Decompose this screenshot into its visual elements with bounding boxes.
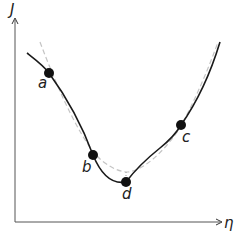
approximate-curve <box>40 42 218 172</box>
point-d-label: d <box>122 185 132 203</box>
true-cost-curve <box>27 42 220 182</box>
point-c-label: c <box>182 128 191 146</box>
diagram-canvas: J η a b c d <box>0 0 242 237</box>
point-a-label: a <box>38 74 47 92</box>
point-b-label: b <box>82 158 92 176</box>
y-axis-label: J <box>7 1 14 19</box>
x-axis-label: η <box>224 214 234 232</box>
